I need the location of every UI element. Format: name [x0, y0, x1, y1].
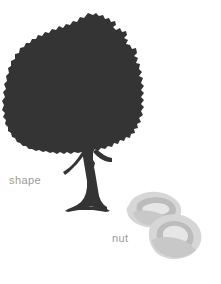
illustration-canvas: shape nut	[0, 0, 221, 284]
tree-branch-right	[93, 149, 112, 162]
label-shape: shape	[9, 175, 41, 186]
figure-graphic	[0, 0, 221, 284]
nut-lower-right	[149, 214, 202, 259]
label-nut: nut	[112, 233, 129, 244]
nut-pair	[127, 192, 202, 259]
tree-branch-left	[63, 152, 84, 175]
